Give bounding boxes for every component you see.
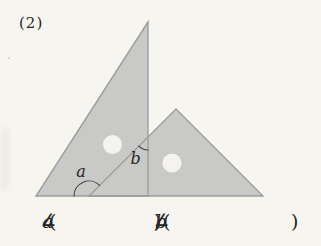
worksheet-page: (2) a b ∠a( ),∠b( )	[0, 0, 321, 246]
answer-b-close-paren: )	[291, 210, 298, 232]
answer-a-open-paren: (	[41, 210, 56, 232]
angle-a-label: a	[76, 162, 86, 181]
answer-b-open-paren: (	[154, 210, 170, 232]
large-triangle-hole-icon	[103, 135, 122, 154]
small-triangle-hole-icon	[163, 154, 182, 173]
angle-b-label: b	[130, 149, 140, 168]
answer-line: ∠a( ),∠b( )	[0, 210, 321, 236]
